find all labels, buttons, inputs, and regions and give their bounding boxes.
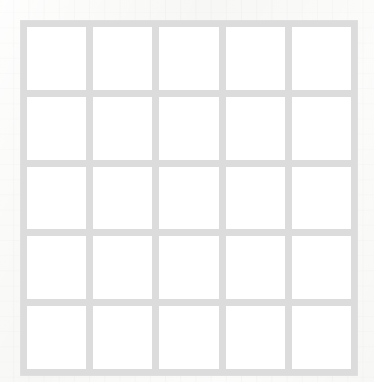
- grid-cell-r4c4[interactable]: [226, 236, 285, 299]
- grid-cell-r4c5[interactable]: [292, 236, 351, 299]
- grid-cell-r3c3[interactable]: [159, 167, 218, 230]
- grid-cell-r1c3[interactable]: [159, 27, 218, 90]
- grid-cell-r3c5[interactable]: [292, 167, 351, 230]
- grid-cell-r1c2[interactable]: [93, 27, 152, 90]
- grid-cell-r2c1[interactable]: [27, 97, 86, 160]
- grid-cell-r1c5[interactable]: [292, 27, 351, 90]
- page-canvas: [0, 0, 374, 382]
- grid-cell-r3c2[interactable]: [93, 167, 152, 230]
- grid-cell-r2c4[interactable]: [226, 97, 285, 160]
- grid-cell-r2c3[interactable]: [159, 97, 218, 160]
- grid-cell-r4c1[interactable]: [27, 236, 86, 299]
- grid-cell-r5c4[interactable]: [226, 306, 285, 369]
- grid-cell-r5c1[interactable]: [27, 306, 86, 369]
- grid-cell-r1c1[interactable]: [27, 27, 86, 90]
- grid-cell-r3c1[interactable]: [27, 167, 86, 230]
- grid-cell-r5c2[interactable]: [93, 306, 152, 369]
- grid-cell-r3c4[interactable]: [226, 167, 285, 230]
- grid-cell-r1c4[interactable]: [226, 27, 285, 90]
- empty-5x5-grid[interactable]: [20, 20, 358, 376]
- grid-cell-r2c2[interactable]: [93, 97, 152, 160]
- grid-cell-r5c3[interactable]: [159, 306, 218, 369]
- grid-cell-r4c2[interactable]: [93, 236, 152, 299]
- grid-cell-r4c3[interactable]: [159, 236, 218, 299]
- grid-cell-r2c5[interactable]: [292, 97, 351, 160]
- grid-cell-r5c5[interactable]: [292, 306, 351, 369]
